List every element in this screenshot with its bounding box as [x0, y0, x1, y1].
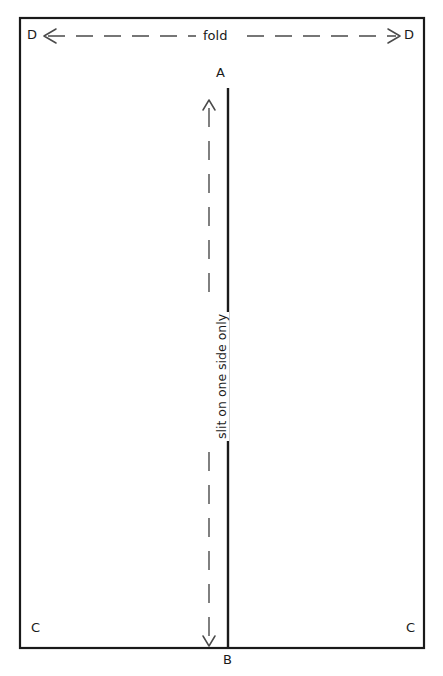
corner-label-top-left: D: [27, 28, 37, 41]
diagram-canvas: D D C C A B fold slit on one side only: [0, 0, 443, 676]
slit-label: slit on one side only: [216, 312, 229, 441]
slit-arrowhead-down-icon: [203, 636, 215, 646]
corner-label-bottom-right: C: [406, 621, 415, 634]
vertex-label-b: B: [223, 653, 232, 666]
fold-label: fold: [199, 29, 231, 42]
corner-label-bottom-left: C: [31, 621, 40, 634]
vertex-label-a: A: [216, 66, 225, 79]
corner-label-top-right: D: [404, 28, 414, 41]
